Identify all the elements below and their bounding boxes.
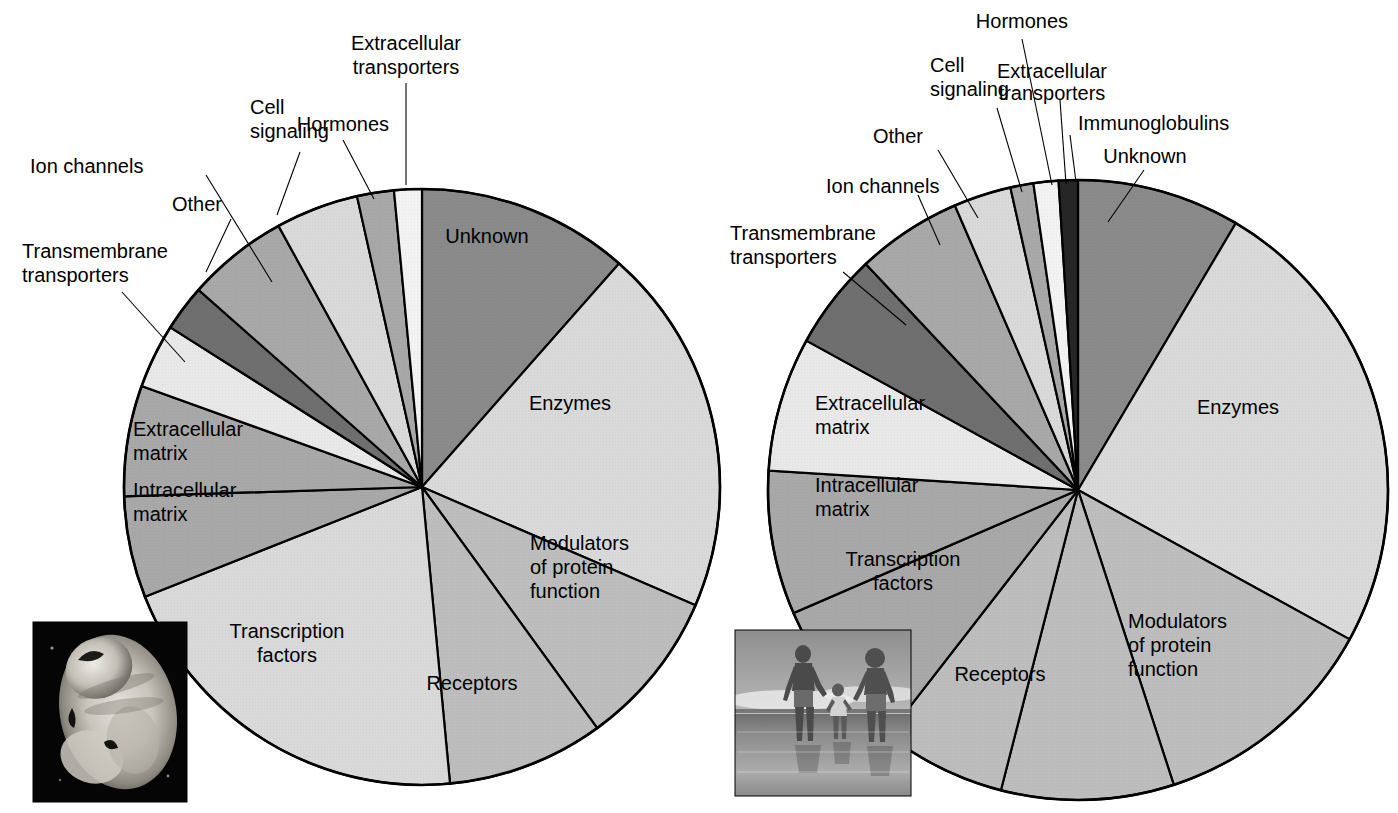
embryo-photo-inset [33, 622, 191, 802]
label-transmembrane-transporters-right-line1: Transmembrane [730, 222, 876, 244]
label-ion-channels-right: Ion channels [826, 175, 939, 197]
label-extracellular-matrix-right-line1: Extracellular [815, 392, 925, 414]
label-transmembrane-transporters-line2: transporters [22, 264, 129, 286]
label-extracellular-matrix-line1: Extracellular [133, 418, 243, 440]
label-extracellular-matrix-line2: matrix [133, 442, 187, 464]
label-transcription-factors-line2: factors [257, 644, 317, 666]
label-extracellular-transporters-line2: transporters [353, 56, 460, 78]
label-transcription-factors-right-line1: Transcription [846, 548, 961, 570]
label-receptors: Receptors [426, 672, 517, 694]
label-transmembrane-transporters-right-line2: transporters [730, 246, 837, 268]
label-unknown: Unknown [445, 225, 528, 247]
label-modulators-line3: function [530, 580, 600, 602]
label-transmembrane-transporters-line1: Transmembrane [22, 240, 168, 262]
label-cell-signaling-right-line1: Cell [930, 54, 964, 76]
label-extracellular-transporters-right-line1: Extracellular [997, 60, 1107, 82]
label-hormones-right: Hormones [976, 10, 1068, 32]
label-modulators-line2: of protein [530, 556, 613, 578]
label-transcription-factors-right-line2: factors [873, 572, 933, 594]
label-other-right: Other [873, 125, 923, 147]
label-cell-signaling-line2: signaling [250, 120, 329, 142]
label-extracellular-matrix-right-line2: matrix [815, 416, 869, 438]
label-enzymes: Enzymes [529, 392, 611, 414]
label-intracellular-matrix-line2: matrix [133, 503, 187, 525]
label-receptors-right: Receptors [954, 663, 1045, 685]
label-modulators-right-line3: function [1128, 658, 1198, 680]
label-extracellular-transporters-line1: Extracellular [351, 32, 461, 54]
label-modulators-right-line1: Modulators [1128, 610, 1227, 632]
label-cell-signaling-right-line2: signaling [930, 78, 1009, 100]
label-immunoglobulins: Immunoglobulins [1078, 112, 1229, 134]
label-unknown-right-callout: Unknown [1103, 145, 1186, 167]
label-intracellular-matrix-right-line1: Intracellular [815, 474, 919, 496]
family-photo-inset [726, 630, 924, 796]
label-other: Other [172, 193, 222, 215]
label-intracellular-matrix-line1: Intracellular [133, 479, 237, 501]
label-transcription-factors-line1: Transcription [230, 620, 345, 642]
label-intracellular-matrix-right-line2: matrix [815, 498, 869, 520]
label-ion-channels: Ion channels [30, 155, 143, 177]
label-modulators-right-line2: of protein [1128, 634, 1211, 656]
figure-canvas: Extracellular transporters Hormones Cell… [0, 0, 1398, 813]
label-cell-signaling-line1: Cell [250, 96, 284, 118]
label-enzymes-right: Enzymes [1197, 396, 1279, 418]
pie-figure-svg: Extracellular transporters Hormones Cell… [0, 0, 1398, 813]
label-extracellular-transporters-right-line2: transporters [999, 82, 1106, 104]
label-modulators-line1: Modulators [530, 532, 629, 554]
